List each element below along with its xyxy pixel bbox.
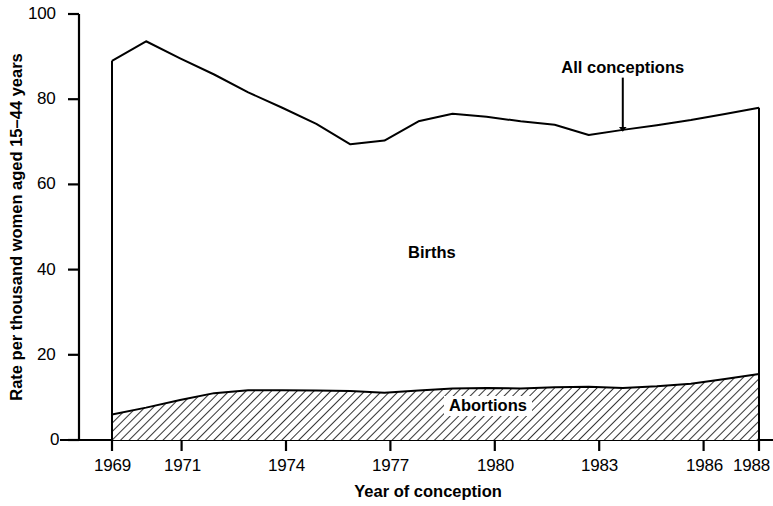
y-tick-label-20: 20 [37,345,56,365]
y-tick-label-0: 0 [50,430,59,450]
annotation-all-conceptions: All conceptions [561,58,684,76]
x-tick-label-1980: 1980 [477,456,514,476]
annotation-abortions: Abortions [444,396,532,416]
chart-canvas: Rate per thousand women aged 15–44 years… [0,0,773,506]
x-tick-label-1971: 1971 [164,456,201,476]
x-axis-ticks [112,440,759,451]
x-axis-title: Year of conception [354,482,502,500]
y-tick-label-80: 80 [37,89,56,109]
abortions-area-series [112,374,759,440]
x-tick-label-1969: 1969 [94,456,131,476]
y-tick-label-40: 40 [37,260,56,280]
chart-figure: Rate per thousand women aged 15–44 years… [0,0,773,506]
y-tick-label-60: 60 [37,174,56,194]
y-axis-title: Rate per thousand women aged 15–44 years [7,53,25,401]
x-tick-label-1988: 1988 [733,456,770,476]
y-tick-label-100: 100 [28,4,56,24]
x-tick-label-1986: 1986 [686,456,723,476]
x-tick-label-1974: 1974 [268,456,305,476]
y-axis-ticks [68,14,79,440]
x-tick-label-1977: 1977 [372,456,409,476]
annotation-births: Births [408,243,456,262]
x-tick-label-1983: 1983 [581,456,618,476]
